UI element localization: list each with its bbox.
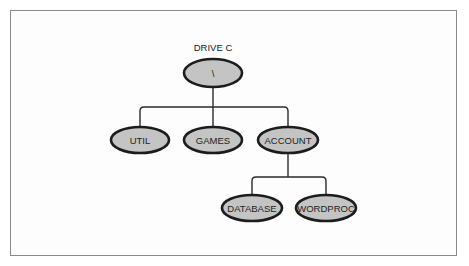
- node-wordproc[interactable]: WORDPROC: [296, 195, 356, 221]
- drive-title: DRIVE C: [194, 42, 233, 53]
- account-connectors: [252, 154, 326, 195]
- root-connectors: [140, 87, 288, 127]
- node-util-label: UTIL: [130, 135, 151, 146]
- node-games-label: GAMES: [196, 135, 230, 146]
- connector-root-bar: [140, 107, 288, 127]
- node-root[interactable]: \: [184, 59, 242, 87]
- connector-account-bar: [252, 177, 326, 195]
- node-database[interactable]: DATABASE: [222, 195, 282, 221]
- node-games[interactable]: GAMES: [184, 127, 242, 153]
- directory-tree-diagram: DRIVE C \ UTIL GAMES ACCOUNT DATABASE WO…: [0, 0, 469, 266]
- node-account-label: ACCOUNT: [265, 135, 312, 146]
- node-wordproc-label: WORDPROC: [297, 203, 355, 214]
- node-database-label: DATABASE: [227, 203, 276, 214]
- node-util[interactable]: UTIL: [111, 127, 169, 153]
- node-account[interactable]: ACCOUNT: [258, 127, 318, 153]
- node-root-label: \: [212, 68, 215, 79]
